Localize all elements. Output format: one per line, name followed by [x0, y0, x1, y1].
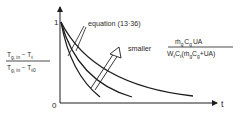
y-axis-label: Tg, in − Tℓ Tg, in − Tℓ0: [6, 51, 50, 73]
svg-text:WℓCℓ(ṁgCg+UA): WℓCℓ(ṁgCg+UA): [167, 50, 215, 59]
curve-slow-decay: [61, 22, 193, 96]
parameter-prefix: smaller: [128, 44, 152, 53]
equation-annotation: equation (13·36): [88, 19, 141, 28]
svg-text:Tg, in − Tℓ: Tg, in − Tℓ: [7, 51, 33, 60]
parameter-label: smaller ṁgCgUA WℓCℓ(ṁgCg+UA): [128, 38, 233, 59]
svg-text:ṁgCgUA: ṁgCgUA: [175, 38, 203, 47]
trend-arrow-icon: [91, 47, 121, 90]
x-axis-label: t: [221, 99, 224, 109]
y-tick-1: 1: [54, 18, 59, 27]
decay-diagram: 1 0 t equation (13·36) Tg, in − Tℓ Tg, i…: [0, 0, 243, 117]
svg-text:Tg, in − Tℓ0: Tg, in − Tℓ0: [7, 64, 36, 73]
origin-label: 0: [52, 101, 57, 110]
